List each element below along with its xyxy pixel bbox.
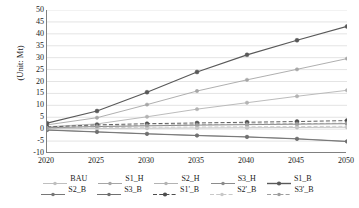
data-point: [245, 135, 248, 138]
legend-row-2: S2_BS3_BS1'_BS2'_BS3'_B: [0, 184, 354, 195]
y-tick-label: 50: [22, 6, 44, 14]
y-tick-label: 10: [22, 101, 44, 109]
legend-item-s3b[interactable]: S3_B: [96, 185, 142, 194]
data-point: [145, 90, 149, 94]
data-point: [95, 125, 98, 128]
legend-label: S3'_B: [294, 185, 313, 194]
data-point: [195, 134, 198, 137]
legend-label: S2_H: [181, 174, 199, 183]
data-point: [345, 24, 347, 28]
legend-item-s1b[interactable]: S1'_B: [152, 185, 199, 194]
legend-label: BAU: [70, 174, 87, 183]
legend-item-s2b[interactable]: S2'_B: [209, 185, 256, 194]
data-point: [95, 130, 98, 133]
y-tick-label: 35: [22, 42, 44, 50]
plot-area: [46, 10, 346, 153]
legend-row-1: BAUS1_HS2_HS3_HS1_B: [0, 173, 354, 184]
y-tick-label: 0: [22, 125, 44, 133]
data-point: [295, 122, 298, 125]
data-point: [195, 70, 199, 74]
legend-label: S3_H: [238, 174, 256, 183]
plot-svg: [47, 10, 347, 153]
y-axis-tick-labels: 50454035302520151050-5-10: [22, 10, 44, 153]
legend-swatch-icon: [152, 185, 178, 194]
data-point: [295, 38, 299, 42]
x-axis-tick-labels: 2020202520302035204020452050: [46, 156, 346, 168]
data-point: [145, 103, 148, 106]
legend-item-s2h[interactable]: S2_H: [153, 174, 199, 183]
legend-swatch-icon: [97, 174, 123, 183]
x-tick-label: 2025: [79, 156, 113, 165]
legend-label: S2'_B: [237, 185, 256, 194]
y-tick-label: 20: [22, 78, 44, 86]
data-point: [95, 116, 98, 119]
legend-label: S1_H: [125, 174, 143, 183]
data-point: [295, 95, 298, 98]
data-point: [47, 121, 49, 125]
data-point: [95, 109, 99, 113]
x-tick-label: 2045: [279, 156, 313, 165]
legend-swatch-icon: [42, 174, 68, 183]
y-tick-label: 40: [22, 30, 44, 38]
data-point: [195, 123, 198, 126]
legend-swatch-icon: [210, 174, 236, 183]
data-point: [245, 101, 248, 104]
legend-swatch-icon: [153, 174, 179, 183]
legend-item-s2b[interactable]: S2_B: [40, 185, 86, 194]
legend-item-s1b[interactable]: S1_B: [266, 174, 312, 183]
x-tick-label: 2050: [329, 156, 359, 165]
data-point: [145, 115, 148, 118]
y-tick-label: -5: [22, 137, 44, 145]
legend-item-bau[interactable]: BAU: [42, 174, 87, 183]
data-point: [145, 124, 148, 127]
legend-label: S1'_B: [180, 185, 199, 194]
data-point: [145, 132, 148, 135]
x-tick-label: 2035: [179, 156, 213, 165]
legend-swatch-icon: [96, 185, 122, 194]
legend-label: S1_B: [294, 174, 312, 183]
data-point: [245, 122, 248, 125]
data-point: [295, 137, 298, 140]
y-tick-label: 25: [22, 66, 44, 74]
data-point: [195, 89, 198, 92]
legend-label: S3_B: [124, 185, 142, 194]
chart-legend: BAUS1_HS2_HS3_HS1_B S2_BS3_BS1'_BS2'_BS3…: [0, 173, 354, 195]
x-tick-label: 2030: [129, 156, 163, 165]
y-tick-label: 5: [22, 113, 44, 121]
data-point: [245, 78, 248, 81]
legend-swatch-icon: [266, 185, 292, 194]
x-tick-label: 2020: [29, 156, 63, 165]
legend-swatch-icon: [40, 185, 66, 194]
x-tick-label: 2040: [229, 156, 263, 165]
y-tick-label: 15: [22, 89, 44, 97]
legend-item-s3b[interactable]: S3'_B: [266, 185, 313, 194]
legend-label: S2_B: [68, 185, 86, 194]
legend-item-s3h[interactable]: S3_H: [210, 174, 256, 183]
data-point: [345, 140, 347, 143]
data-point: [47, 126, 49, 129]
legend-item-s1h[interactable]: S1_H: [97, 174, 143, 183]
legend-swatch-icon: [266, 174, 292, 183]
data-point: [345, 57, 347, 60]
legend-swatch-icon: [209, 185, 235, 194]
data-point: [245, 53, 249, 57]
y-tick-label: 45: [22, 18, 44, 26]
data-point: [195, 107, 198, 110]
data-point: [295, 68, 298, 71]
data-point: [345, 89, 347, 92]
y-tick-label: 30: [22, 54, 44, 62]
data-point: [345, 122, 347, 125]
